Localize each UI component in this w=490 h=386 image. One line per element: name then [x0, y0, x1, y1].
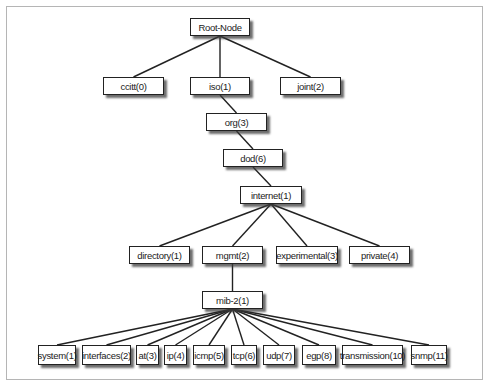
edge-iso-org [220, 95, 237, 113]
edge-mib2-snmp [233, 309, 430, 345]
edge-root-joint [220, 36, 311, 77]
edge-internet-private [271, 204, 380, 246]
edge-internet-directory [160, 204, 272, 246]
node-snmp: snmp(11) [411, 345, 447, 365]
node-label: system(1) [38, 350, 77, 361]
node-dod: dod(6) [223, 149, 283, 167]
node-label: directory(1) [137, 250, 181, 261]
node-label: experimental(3) [276, 250, 338, 261]
node-icmp: icmp(5) [193, 345, 225, 365]
edge-mib2-transmission [233, 309, 373, 345]
node-internet: internet(1) [240, 186, 302, 204]
node-label: interfaces(2) [82, 350, 131, 361]
node-label: org(3) [225, 117, 249, 128]
node-root: Root-Node [190, 18, 250, 36]
node-ip: ip(4) [164, 345, 187, 365]
node-label: udp(7) [266, 350, 292, 361]
node-label: egp(8) [306, 350, 332, 361]
edge-mib2-tcp [233, 309, 245, 345]
edge-mib2-system [57, 309, 233, 345]
node-system: system(1) [38, 345, 76, 365]
edge-internet-mgmt [233, 204, 272, 246]
node-label: iso(1) [209, 81, 231, 92]
node-label: joint(2) [297, 81, 324, 92]
node-egp: egp(8) [302, 345, 336, 365]
node-iso: iso(1) [190, 77, 250, 95]
edge-mib2-interfaces [107, 309, 233, 345]
node-private: private(4) [349, 246, 410, 264]
node-interfaces: interfaces(2) [82, 345, 131, 365]
edge-root-ccitt [134, 36, 221, 77]
node-org: org(3) [206, 113, 267, 131]
edge-dod-internet [253, 167, 271, 186]
node-joint: joint(2) [280, 77, 341, 95]
node-label: icmp(5) [194, 350, 224, 361]
node-label: mgmt(2) [216, 250, 249, 261]
node-label: private(4) [361, 250, 398, 261]
node-mgmt: mgmt(2) [202, 246, 263, 264]
node-tcp: tcp(6) [231, 345, 257, 365]
node-label: ip(4) [167, 350, 185, 361]
node-label: mib-2(1) [216, 295, 249, 306]
node-experimental: experimental(3) [276, 246, 338, 264]
node-label: internet(1) [251, 190, 291, 201]
node-ccitt: ccitt(0) [103, 77, 164, 95]
node-directory: directory(1) [129, 246, 190, 264]
edge-mib2-egp [233, 309, 320, 345]
edge-org-dod [237, 131, 254, 149]
node-mib2: mib-2(1) [202, 291, 263, 309]
node-transmission: transmission(10) [342, 345, 403, 365]
node-label: at(3) [138, 350, 156, 361]
node-label: tcp(6) [233, 350, 255, 361]
node-label: Root-Node [198, 22, 241, 33]
node-udp: udp(7) [263, 345, 295, 365]
node-label: dod(6) [240, 153, 266, 164]
node-label: ccitt(0) [120, 81, 146, 92]
node-at: at(3) [136, 345, 159, 365]
node-label: snmp(11) [410, 350, 447, 361]
edge-mib2-at [148, 309, 233, 345]
node-label: transmission(10) [340, 350, 405, 361]
